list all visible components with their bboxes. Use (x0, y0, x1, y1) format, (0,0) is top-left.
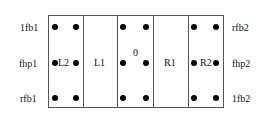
right-label-middle: fhp2 (232, 59, 250, 69)
dot (120, 95, 126, 101)
dot (143, 60, 149, 66)
column-divider (188, 15, 189, 108)
column-label-l2: L2 (58, 58, 69, 68)
column-divider (83, 15, 84, 108)
dot (191, 60, 197, 66)
dot (52, 60, 58, 66)
dot (73, 95, 79, 101)
right-label-bottom: 1fb2 (232, 94, 250, 104)
dot (213, 60, 219, 66)
column-label-l1: L1 (94, 58, 105, 68)
dot (191, 95, 197, 101)
dot (73, 60, 79, 66)
dot (52, 95, 58, 101)
column-divider (117, 15, 118, 108)
column-label-r1: R1 (164, 58, 176, 68)
column-label-r2: R2 (200, 58, 212, 68)
dot (52, 24, 58, 30)
dot (73, 24, 79, 30)
dot (213, 24, 219, 30)
column-label-0: 0 (133, 48, 138, 58)
dot (143, 24, 149, 30)
column-divider (153, 15, 154, 108)
dot (191, 24, 197, 30)
dot (143, 95, 149, 101)
left-label-bottom: rfb1 (20, 94, 37, 104)
dot (213, 95, 219, 101)
dot (120, 60, 126, 66)
left-label-top: 1fb1 (20, 23, 38, 33)
dot (120, 24, 126, 30)
left-label-middle: fhp1 (19, 59, 37, 69)
right-label-top: rfb2 (232, 23, 249, 33)
